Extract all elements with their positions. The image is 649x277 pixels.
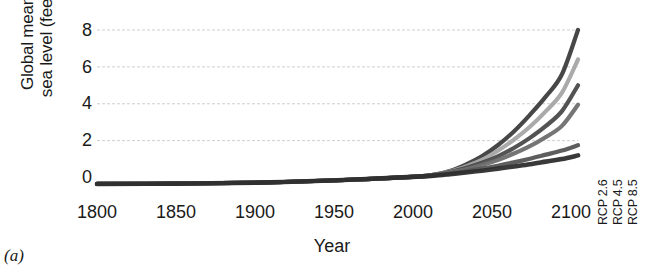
y-tick-0: 0 (64, 168, 92, 186)
x-axis-label: Year (97, 236, 567, 257)
projection-curves (97, 30, 578, 184)
sea-level-figure: Global mean sea level (feet) 8 6 4 2 0 1… (0, 0, 649, 277)
x-tick-1800: 1800 (62, 203, 132, 221)
gridlines (97, 30, 578, 141)
x-tick-1950: 1950 (299, 203, 369, 221)
y-tick-8: 8 (64, 21, 92, 39)
y-tick-6: 6 (64, 58, 92, 76)
y-tick-4: 4 (64, 94, 92, 112)
y-tick-2: 2 (64, 131, 92, 149)
boxplot-label-rcp26: RCP 2.6 (597, 179, 610, 225)
y-axis-label: Global mean sea level (feet) (20, 0, 54, 138)
x-tick-2050: 2050 (457, 203, 527, 221)
panel-letter: (a) (4, 246, 24, 266)
y-tick-labels: 8 6 4 2 0 (60, 0, 92, 230)
x-tick-1900: 1900 (220, 203, 290, 221)
x-tick-2000: 2000 (378, 203, 448, 221)
boxplot-label-rcp45: RCP 4.5 (612, 179, 625, 225)
x-tick-1850: 1850 (141, 203, 211, 221)
boxplot-label-rcp85: RCP 8.5 (627, 179, 640, 225)
